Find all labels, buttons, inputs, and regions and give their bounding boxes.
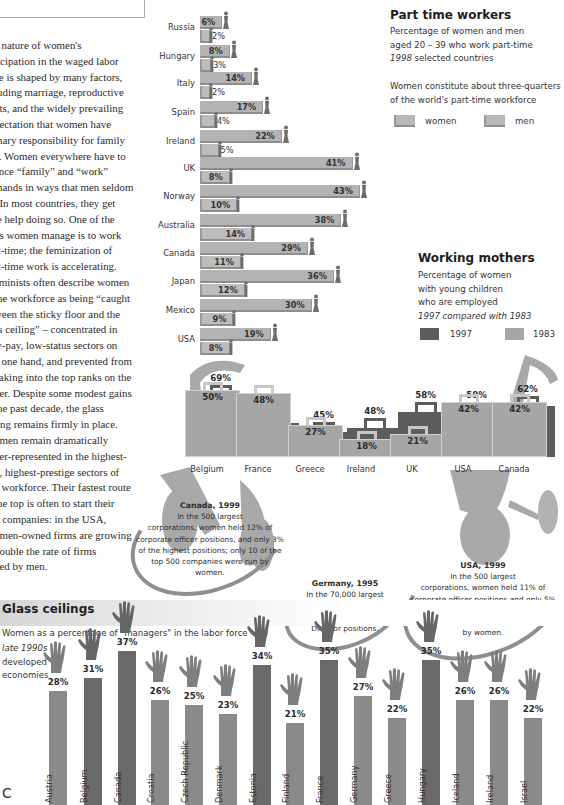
callout-canada-line: of the highest positions; only 10 of the (130, 545, 290, 556)
page-marker: C (2, 785, 12, 801)
men-bar: 10% (200, 199, 237, 212)
part-time-country: USA (178, 334, 195, 344)
value-1983: 27% (288, 427, 343, 437)
essay-line: rt-time; the feminization of (0, 243, 146, 259)
men-value: 3% (213, 59, 226, 72)
raised-hand-icon (347, 646, 377, 678)
men-value: 2% (212, 30, 225, 43)
essay-line: ance “family” and “work” (0, 164, 146, 180)
men-bar: 14% (200, 228, 252, 241)
glass-ceiling-value: 35% (411, 646, 451, 656)
working-mothers-country: France (233, 464, 283, 474)
essay-line: eminists often describe women (0, 275, 146, 291)
men-bar: 12% (200, 284, 245, 297)
briefcase-1983: 27% (288, 425, 343, 457)
women-bar: 36% (200, 270, 334, 283)
women-value: 29% (281, 242, 301, 255)
callout-germany-title: Germany, 1995 (312, 579, 378, 588)
part-time-note-line2: of the world's part-time workforce (390, 94, 564, 108)
legend-1997-label: 1997 (450, 329, 472, 339)
raised-hand-icon (517, 668, 547, 700)
raised-hand-icon (279, 673, 309, 705)
briefcase-handle-icon (203, 382, 223, 390)
essay-line: ticipation in the waged labor (0, 54, 146, 70)
value-1997: 58% (398, 390, 453, 400)
women-value: 14% (225, 72, 245, 85)
working-mothers-sub-line2: with young children (418, 283, 564, 297)
woman-figure-icon (309, 237, 315, 255)
essay-line: e nature of women's (0, 38, 146, 54)
woman-figure-icon (361, 180, 367, 198)
men-value: 12% (218, 284, 238, 297)
glass-ceiling-value: 22% (377, 704, 417, 714)
working-mothers-country: USA (438, 464, 488, 474)
glass-ceiling-value: 31% (73, 664, 113, 674)
part-time-year: 1998 (390, 53, 412, 63)
men-bar: 5% (200, 144, 219, 157)
part-time-country: Japan (172, 276, 195, 286)
part-time-subtitle-line1: Percentage of women and men (390, 25, 560, 39)
glass-ceiling-value: 26% (479, 686, 519, 696)
briefcase-1983: 42% (492, 402, 547, 457)
briefcase-1983: 50% (185, 390, 240, 458)
woman-figure-icon (354, 152, 360, 170)
raised-hand-icon (42, 641, 72, 673)
part-time-country: Canada (163, 248, 195, 258)
briefcase-handle-icon (408, 426, 428, 434)
woman-figure-icon (272, 323, 278, 341)
essay-line: e. Women everywhere have to (0, 149, 146, 165)
callout-canada-line: corporate officer positions, and only 3% (130, 534, 290, 545)
part-time-country: Russia (168, 22, 195, 32)
glass-ceilings-title: Glass ceilings (2, 602, 94, 616)
men-value: 5% (221, 144, 234, 157)
raised-hand-icon (212, 664, 242, 696)
callout-canada-line: In the 500 largest (130, 511, 290, 522)
men-value: 11% (214, 256, 234, 269)
part-time-title: Part time workers (390, 8, 511, 22)
men-bar: 2% (200, 30, 210, 43)
men-value: 4% (217, 115, 230, 128)
women-bar: 43% (200, 185, 360, 198)
callout-canada: Canada, 1999 In the 500 largest corporat… (130, 500, 290, 578)
value-1983: 50% (185, 392, 240, 402)
woman-figure-icon (342, 209, 348, 227)
men-bar: 8% (200, 342, 230, 355)
raised-hand-icon (313, 610, 343, 642)
raised-hand-icon (381, 668, 411, 700)
man-figure-icon (209, 83, 213, 99)
women-value: 36% (307, 270, 327, 283)
part-time-country: Italy (177, 78, 195, 88)
women-value: 43% (333, 185, 353, 198)
man-figure-icon (232, 310, 236, 326)
part-time-country: Mexico (166, 305, 195, 315)
woman-figure-icon (231, 40, 237, 58)
working-mothers-years: 1997 compared with 1983 (418, 310, 564, 324)
glass-ceiling-value: 35% (309, 646, 349, 656)
essay-line: ned by men. (0, 559, 146, 575)
value-1997: 48% (347, 406, 402, 416)
part-time-note-line1: Women constitute about three-quarters (390, 80, 564, 94)
value-1983: 21% (390, 436, 445, 446)
value-1983: 42% (441, 404, 496, 414)
woman-figure-icon (283, 125, 289, 143)
women-bar: 19% (200, 328, 271, 341)
essay-line: ys women manage is to work (0, 228, 146, 244)
women-value: 38% (315, 214, 335, 227)
man-figure-icon (236, 196, 240, 212)
part-time-country: Norway (163, 191, 195, 201)
women-value: 22% (255, 130, 275, 143)
essay-line: ss ceiling” – concentrated in (0, 322, 146, 338)
woman-figure-icon (264, 96, 270, 114)
men-bar: 2% (200, 86, 210, 99)
woman-figure-icon (335, 265, 341, 283)
briefcase-handle-icon (459, 394, 479, 402)
glass-ceiling-value: 22% (513, 704, 553, 714)
legend-1997-swatch (420, 328, 439, 340)
part-time-subtitle-line3: 1998 selected countries (390, 52, 560, 66)
part-time-country: Australia (158, 220, 195, 230)
essay-line: double the rate of firms (0, 544, 146, 560)
callout-usa-title: USA, 1999 (460, 561, 506, 570)
man-figure-icon (251, 225, 255, 241)
legend-men-label: men (515, 116, 534, 126)
callout-germany-line: In the 70,000 largest (285, 589, 405, 600)
